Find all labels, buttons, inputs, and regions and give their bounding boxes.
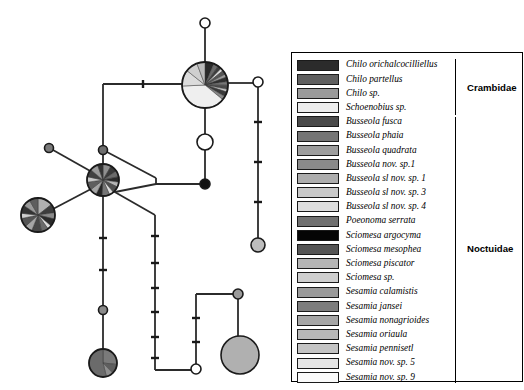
family-bracket-crambidae xyxy=(455,59,456,115)
legend-species-label: Busseola sl nov. sp. 3 xyxy=(346,188,426,197)
legend-species-label: Busseola sl nov. sp. 1 xyxy=(346,174,426,183)
legend-species-label: Sciomesa piscator xyxy=(346,259,414,268)
network-node-circle xyxy=(221,336,259,374)
legend-row: Sesamia pennisetl xyxy=(297,342,447,356)
legend-row: Sesamia nov. sp. 9 xyxy=(297,370,447,384)
legend-species-label: Sesamia pennisetl xyxy=(346,344,413,353)
legend-row: Sciomesa mesophea xyxy=(297,242,447,256)
legend-color-swatch xyxy=(297,116,339,127)
legend-species-label: Busseola fusca xyxy=(346,117,402,126)
network-node-pie xyxy=(21,198,55,232)
legend-row: Sesamia nov. sp. 5 xyxy=(297,356,447,370)
legend-species-label: Chilo sp. xyxy=(346,89,380,98)
legend-species-label: Sesamia nov. sp. 5 xyxy=(346,358,415,367)
legend-row: Busseola sl nov. sp. 4 xyxy=(297,200,447,214)
network-node-circle xyxy=(200,18,210,28)
legend-row: Chilo sp. xyxy=(297,86,447,100)
legend-row: Schoenobius sp. xyxy=(297,101,447,115)
network-node-circle xyxy=(253,77,263,87)
legend-row: Chilo partellus xyxy=(297,72,447,86)
network-node-circle xyxy=(99,146,108,155)
figure-root: Chilo orichalcocilliellusChilo partellus… xyxy=(0,0,524,390)
legend-row: Chilo orichalcocilliellus xyxy=(297,58,447,72)
haplotype-network-panel xyxy=(0,0,290,390)
legend-species-label: Busseola quadrata xyxy=(346,146,417,155)
legend-species-label: Sciomesa argocyma xyxy=(346,231,421,240)
legend-color-swatch xyxy=(297,230,339,241)
network-node-circle xyxy=(251,238,265,252)
legend-species-label: Sesamia nov. sp. 9 xyxy=(346,373,415,382)
legend-color-swatch xyxy=(297,372,339,383)
legend-color-swatch xyxy=(297,287,339,298)
legend-panel: Chilo orichalcocilliellusChilo partellus… xyxy=(291,52,523,382)
legend-row: Sciomesa sp. xyxy=(297,271,447,285)
legend-color-swatch xyxy=(297,358,339,369)
legend-color-swatch xyxy=(297,329,339,340)
legend-row: Sesamia oriaula xyxy=(297,328,447,342)
legend-color-swatch xyxy=(297,60,339,71)
network-nodes xyxy=(21,18,265,377)
legend-row: Sesamia nonagrioides xyxy=(297,313,447,327)
legend-color-swatch xyxy=(297,187,339,198)
edge-hub-to-leftpie xyxy=(53,189,91,209)
legend-row: Busseola fusca xyxy=(297,115,447,129)
network-node-circle xyxy=(233,289,243,299)
legend-species-label: Sciomesa sp. xyxy=(346,273,394,282)
legend-row: Busseola nov. sp.1 xyxy=(297,157,447,171)
legend-species-label: Busseola nov. sp.1 xyxy=(346,160,415,169)
legend-color-swatch xyxy=(297,216,339,227)
legend-entry-list: Chilo orichalcocilliellusChilo partellus… xyxy=(297,58,447,384)
legend-color-swatch xyxy=(297,131,339,142)
legend-color-swatch xyxy=(297,102,339,113)
legend-species-label: Schoenobius sp. xyxy=(346,103,406,112)
legend-row: Busseola sl nov. sp. 1 xyxy=(297,172,447,186)
legend-row: Poeonoma serrata xyxy=(297,214,447,228)
legend-row: Busseola phaia xyxy=(297,129,447,143)
legend-species-label: Chilo orichalcocilliellus xyxy=(346,60,437,69)
legend-color-swatch xyxy=(297,258,339,269)
network-node-circle xyxy=(197,134,213,150)
network-node-pie xyxy=(89,349,117,377)
network-node-circle xyxy=(191,364,201,374)
legend-row: Busseola sl nov. sp. 3 xyxy=(297,186,447,200)
legend-species-label: Sesamia calamistis xyxy=(346,287,418,296)
legend-color-swatch xyxy=(297,201,339,212)
legend-color-swatch xyxy=(297,173,339,184)
legend-color-swatch xyxy=(297,315,339,326)
family-label-crambidae: Crambidae xyxy=(467,82,517,93)
legend-species-label: Sciomesa mesophea xyxy=(346,245,421,254)
legend-row: Sciomesa argocyma xyxy=(297,228,447,242)
legend-color-swatch xyxy=(297,244,339,255)
family-label-noctuidae: Noctuidae xyxy=(467,243,513,254)
legend-species-label: Sesamia nonagrioides xyxy=(346,316,429,325)
legend-color-swatch xyxy=(297,301,339,312)
legend-species-label: Poeonoma serrata xyxy=(346,216,416,225)
legend-color-swatch xyxy=(297,145,339,156)
legend-species-label: Sesamia oriaula xyxy=(346,330,407,339)
network-node-pie xyxy=(87,164,119,196)
legend-row: Sciomesa piscator xyxy=(297,257,447,271)
legend-species-label: Sesamia jansei xyxy=(346,302,402,311)
legend-color-swatch xyxy=(297,88,339,99)
legend-color-swatch xyxy=(297,272,339,283)
network-diagram xyxy=(0,0,290,390)
legend-row: Sesamia jansei xyxy=(297,299,447,313)
legend-color-swatch xyxy=(297,159,339,170)
edge-zigzag-lower xyxy=(115,184,156,192)
network-node-circle xyxy=(99,306,108,315)
legend-row: Sesamia calamistis xyxy=(297,285,447,299)
edge-leftsmall-to-hub xyxy=(53,150,92,172)
legend-color-swatch xyxy=(297,74,339,85)
legend-color-swatch xyxy=(297,343,339,354)
network-node-circle xyxy=(45,144,54,153)
network-node-circle xyxy=(200,179,210,189)
legend-species-label: Busseola sl nov. sp. 4 xyxy=(346,202,426,211)
network-edges xyxy=(53,23,258,370)
legend-species-label: Chilo partellus xyxy=(346,75,403,84)
family-bracket-noctuidae xyxy=(455,117,456,383)
edge-hub-diagonal-right xyxy=(113,191,155,215)
legend-row: Busseola quadrata xyxy=(297,143,447,157)
legend-species-label: Busseola phaia xyxy=(346,131,404,140)
network-node-pie xyxy=(182,62,228,108)
